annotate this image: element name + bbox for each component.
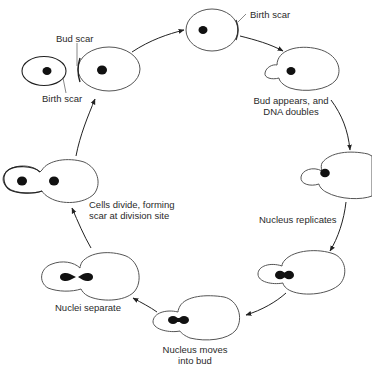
cell-newborn [186, 9, 246, 51]
arrow-1 [132, 30, 184, 52]
label-nuclei-separate: Nuclei separate [55, 302, 121, 313]
nucleus-daughter [17, 177, 27, 186]
nucleus [287, 67, 296, 75]
arrow-2 [240, 36, 283, 51]
label-cells-divide-line2: scar at division site [89, 210, 175, 221]
label-bud-appears-line1: Bud appears, and [246, 95, 336, 106]
label-cells-divide-line1: Cells divide, forming [89, 199, 175, 210]
nucleus [199, 26, 208, 34]
cell-bud-appears [265, 47, 339, 90]
dividing-nucleus [173, 318, 184, 322]
arrow-4 [330, 202, 346, 251]
label-birth-scar-left: Birth scar [42, 93, 82, 104]
label-bud-scar: Bud scar [56, 33, 94, 44]
nucleus [43, 67, 52, 75]
label-nucleus-replicates: Nucleus replicates [259, 214, 337, 225]
nucleus [97, 66, 107, 75]
label-birth-scar-top: Birth scar [250, 9, 290, 20]
label-nucleus-moves-line2: into bud [150, 355, 240, 366]
label-nucleus-moves-line1: Nucleus moves [150, 344, 240, 355]
label-bud-appears-line2: DNA doubles [246, 106, 336, 117]
mother-cell [78, 47, 140, 91]
arrow-8 [76, 99, 95, 156]
yeast-cell-cycle-diagram: Bud scar Birth scar Birth scar Bud appea… [0, 0, 372, 366]
cell-nucleus-replicates [301, 152, 372, 199]
arrow-6 [133, 298, 157, 312]
label-nucleus-moves: Nucleus moves into bud [150, 344, 240, 366]
cell-nucleus-moves [153, 296, 240, 340]
label-cells-divide: Cells divide, forming scar at division s… [89, 199, 175, 221]
dividing-nucleus [280, 273, 289, 278]
arrow-5 [246, 293, 286, 315]
cells-separated [22, 43, 140, 93]
label-bud-appears: Bud appears, and DNA doubles [246, 95, 336, 117]
cell-nuclei-separate [42, 253, 140, 300]
nucleus [320, 169, 330, 178]
nucleus-mother [49, 177, 59, 186]
cell-nucleus-elongates [258, 251, 345, 294]
cell-divide [3, 160, 98, 203]
